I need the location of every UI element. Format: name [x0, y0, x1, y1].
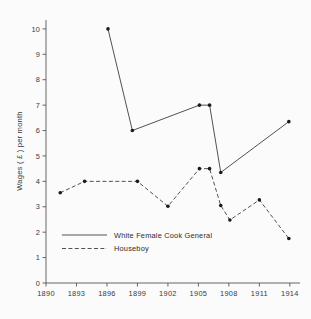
x-tick-label: 1908 — [220, 289, 238, 298]
y-tick-label: 4 — [36, 177, 40, 186]
y-tick-label: 10 — [31, 25, 40, 34]
y-tick-label: 9 — [36, 50, 40, 59]
line-chart: 012345678910 189018931896189919021905190… — [0, 0, 311, 319]
data-point-marker — [136, 180, 140, 184]
y-tick-label: 0 — [36, 279, 40, 288]
data-point-marker — [219, 204, 223, 208]
y-axis-title-text: Wages ( £ ) per month — [15, 111, 24, 190]
y-tick-label: 3 — [36, 202, 40, 211]
data-point-marker — [208, 103, 212, 107]
x-tick-label: 1905 — [190, 289, 208, 298]
x-tick-label: 1911 — [251, 289, 268, 298]
y-tick-label: 6 — [36, 126, 40, 135]
y-axis-title: Wages ( £ ) per month — [15, 111, 24, 190]
chart-background — [0, 0, 311, 319]
data-point-marker — [287, 237, 291, 241]
data-point-marker — [258, 198, 262, 202]
x-tick-label: 1890 — [37, 289, 55, 298]
legend-label: Houseboy — [114, 244, 149, 253]
data-point-marker — [219, 171, 223, 175]
data-point-marker — [106, 27, 110, 31]
data-point-marker — [58, 191, 62, 195]
x-tick-label: 1899 — [129, 289, 147, 298]
chart-figure: 012345678910 189018931896189919021905190… — [0, 0, 311, 319]
x-tick-labels: 189018931896189919021905190819111914 — [37, 289, 298, 298]
x-tick-label: 1902 — [159, 289, 177, 298]
data-point-marker — [83, 180, 87, 184]
data-point-marker — [166, 204, 170, 208]
legend-label: White Female Cook General — [114, 231, 212, 240]
y-tick-label: 2 — [36, 228, 40, 237]
y-tick-label: 8 — [36, 75, 40, 84]
y-tick-label: 5 — [36, 152, 40, 161]
x-tick-label: 1914 — [281, 289, 299, 298]
data-point-marker — [198, 167, 202, 171]
x-tick-label: 1893 — [68, 289, 86, 298]
data-point-marker — [228, 218, 232, 222]
data-point-marker — [287, 120, 291, 124]
data-point-marker — [131, 129, 135, 133]
x-tick-label: 1896 — [98, 289, 116, 298]
data-point-marker — [208, 167, 212, 171]
y-tick-label: 7 — [36, 101, 40, 110]
data-point-marker — [198, 103, 202, 107]
y-tick-label: 1 — [36, 253, 40, 262]
